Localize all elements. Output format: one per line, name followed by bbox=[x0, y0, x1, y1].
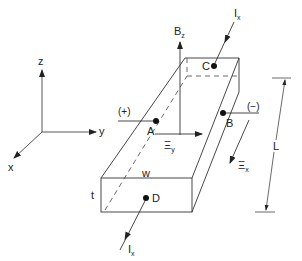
coordinate-axes bbox=[14, 70, 96, 158]
ey-label: Ξy bbox=[164, 140, 175, 152]
current-out-line bbox=[120, 199, 146, 250]
point-d bbox=[143, 195, 149, 201]
point-b-label: B bbox=[226, 118, 233, 129]
bar-outline bbox=[101, 58, 239, 212]
x-axis-label: x bbox=[8, 162, 14, 173]
minus-terminal-label: (−) bbox=[247, 101, 260, 112]
point-d-label: D bbox=[152, 193, 160, 204]
point-a bbox=[153, 118, 159, 124]
point-c bbox=[211, 63, 217, 69]
current-bottom-label: Ix bbox=[128, 244, 135, 256]
ey-sub: y bbox=[171, 146, 175, 153]
front-face bbox=[101, 178, 192, 212]
b-field-label: Bz bbox=[174, 26, 185, 38]
ex-sub: x bbox=[245, 166, 249, 173]
current-in-line bbox=[215, 22, 234, 63]
y-axis-label: y bbox=[99, 126, 105, 137]
plus-terminal-label: (+) bbox=[118, 106, 131, 117]
current-bottom-sub: x bbox=[131, 250, 135, 257]
point-a-label: A bbox=[147, 126, 154, 137]
thickness-label: t bbox=[91, 190, 94, 201]
point-c-label: C bbox=[202, 61, 210, 72]
x-axis bbox=[14, 132, 42, 158]
z-axis-label: z bbox=[38, 56, 44, 67]
ex-label: Ξx bbox=[238, 160, 249, 172]
current-top-label: Ix bbox=[234, 8, 241, 20]
current-top-sub: x bbox=[237, 14, 241, 21]
point-b bbox=[220, 110, 226, 116]
contact-points bbox=[143, 63, 226, 201]
length-label: L bbox=[273, 141, 279, 152]
width-label: w bbox=[142, 168, 150, 179]
b-field-sub: z bbox=[181, 32, 185, 39]
